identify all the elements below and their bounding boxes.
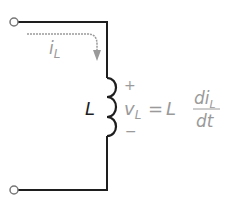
polarity-plus: +	[124, 77, 136, 93]
svg-text:diL: diL	[194, 88, 216, 111]
equation-coefficient: L	[166, 98, 176, 119]
current-label: iL	[49, 38, 60, 61]
inductor-circuit-diagram: iL L + − vL = L diL dt	[0, 0, 236, 203]
bottom-wire	[18, 136, 107, 190]
inductor-equation: vL = L diL dt	[124, 88, 220, 131]
equation-v: v	[124, 98, 135, 119]
top-terminal	[10, 18, 18, 26]
current-arrow-icon	[27, 34, 101, 61]
equation-equals: =	[148, 98, 163, 119]
equation-numerator: di	[194, 88, 210, 108]
svg-text:vL: vL	[124, 98, 141, 122]
equation-denominator: dt	[196, 111, 215, 131]
polarity-minus: −	[125, 123, 137, 139]
equation-v-sub: L	[135, 108, 142, 122]
bottom-terminal	[10, 186, 18, 194]
inductor-coil-icon	[107, 78, 116, 136]
inductor-label: L	[85, 98, 95, 119]
